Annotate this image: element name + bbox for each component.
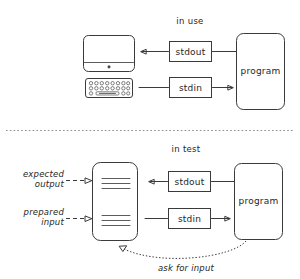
arrowhead-ask-for-input bbox=[120, 246, 127, 251]
arrow-stdout-to-file bbox=[149, 179, 168, 183]
stdin-label-in-use: stdin bbox=[179, 83, 202, 93]
program-label-in-use: program bbox=[241, 66, 281, 76]
test-file-icon bbox=[93, 163, 138, 241]
expected-output-label-line2: output bbox=[35, 179, 65, 189]
arrow-stdout-to-monitor bbox=[141, 49, 169, 53]
stdout-label-in-use: stdout bbox=[176, 47, 206, 57]
ask-for-input-label: ask for input bbox=[158, 263, 215, 273]
expected-output-annotation: expected output bbox=[23, 169, 92, 189]
section-label-in-test: in test bbox=[172, 144, 201, 154]
ask-for-input-feedback: ask for input bbox=[120, 241, 247, 273]
expected-output-label-line1: expected bbox=[23, 169, 65, 179]
monitor-icon bbox=[84, 36, 135, 72]
arrowhead-prepared-input bbox=[85, 216, 92, 221]
stdout-box-in-use: stdout bbox=[170, 42, 212, 62]
prepared-input-label-line1: prepared bbox=[23, 207, 65, 217]
prepared-input-label-line2: input bbox=[41, 217, 64, 227]
stdout-box-in-test: stdout bbox=[169, 172, 211, 192]
program-box-in-use: program bbox=[237, 34, 285, 110]
section-in-test: in test expected output bbox=[23, 144, 283, 273]
dotted-curve-ask-for-input bbox=[124, 241, 246, 258]
stdin-box-in-use: stdin bbox=[170, 78, 212, 98]
arrow-stdin-to-program bbox=[213, 85, 234, 89]
diagram-canvas: in use bbox=[0, 0, 300, 279]
program-box-in-test: program bbox=[235, 164, 283, 240]
stdout-label-in-test: stdout bbox=[175, 177, 205, 187]
section-label-in-use: in use bbox=[176, 16, 203, 26]
stdin-box-in-test: stdin bbox=[169, 209, 211, 229]
stdin-label-in-test: stdin bbox=[178, 214, 201, 224]
program-label-in-test: program bbox=[239, 196, 279, 206]
arrowhead-expected-output bbox=[85, 178, 92, 183]
section-in-use: in use bbox=[84, 16, 285, 110]
keyboard-icon bbox=[86, 79, 133, 98]
prepared-input-annotation: prepared input bbox=[23, 207, 92, 227]
arrow-stdin-to-program-test bbox=[212, 216, 231, 220]
